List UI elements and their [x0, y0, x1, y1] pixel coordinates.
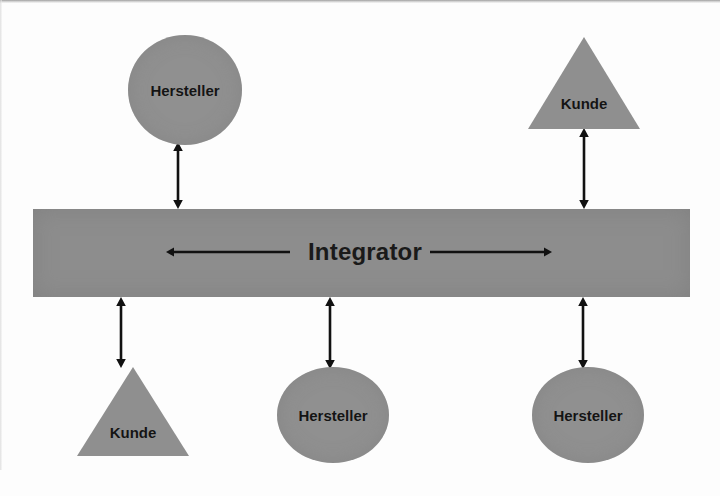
node-hersteller-bottom-middle: Hersteller — [277, 367, 389, 463]
node-label-kunde-bottom-left: Kunde — [110, 424, 157, 441]
diagram-canvas: Integrator HerstellerKundeKundeHerstelle… — [0, 0, 720, 496]
node-label-kunde-top-right: Kunde — [561, 95, 608, 112]
connector-hersteller-bottom-middle — [320, 297, 340, 369]
triangle-shape-kunde-top-right — [528, 37, 640, 129]
node-hersteller-top-left: Hersteller — [128, 35, 242, 145]
connector-hersteller-top-left — [168, 142, 188, 209]
connector-kunde-bottom-left — [111, 297, 131, 368]
connector-kunde-top-right — [574, 128, 594, 209]
node-kunde-bottom-left: Kunde — [77, 367, 189, 456]
node-label-hersteller-bottom-middle: Hersteller — [298, 407, 367, 424]
integrator-label: Integrator — [308, 238, 422, 266]
connector-hersteller-bottom-right — [573, 297, 593, 369]
integrator-arrow-left — [160, 243, 296, 261]
node-hersteller-bottom-right: Hersteller — [532, 367, 644, 463]
scan-frame-top-edge — [0, 0, 720, 3]
node-label-hersteller-top-left: Hersteller — [150, 82, 219, 99]
node-kunde-top-right: Kunde — [528, 37, 640, 129]
integrator-arrow-right — [424, 243, 558, 261]
scan-frame-left-edge — [0, 0, 2, 470]
node-label-hersteller-bottom-right: Hersteller — [553, 407, 622, 424]
triangle-shape-kunde-bottom-left — [77, 367, 189, 456]
